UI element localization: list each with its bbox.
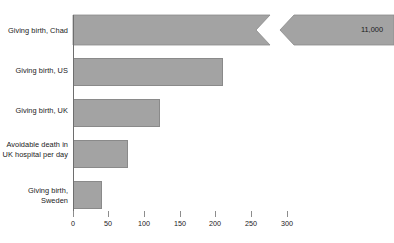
x-tick-50 <box>108 211 109 217</box>
plot-area: Giving birth, Chad Giving birth, US Givi… <box>0 0 394 243</box>
category-label-us: Giving birth, US <box>2 66 68 76</box>
bar-sweden <box>73 181 102 209</box>
bar-us <box>73 58 223 86</box>
x-tick-0 <box>73 211 74 217</box>
x-tick-300 <box>287 211 288 217</box>
category-label-chad: Giving birth, Chad <box>2 26 68 36</box>
x-tick-label-50: 50 <box>98 220 118 228</box>
x-tick-150 <box>180 211 181 217</box>
bar-uk-hospital <box>73 140 128 168</box>
x-tick-100 <box>144 211 145 217</box>
x-tick-label-200: 200 <box>205 220 225 228</box>
category-label-uk: Giving birth, UK <box>2 106 68 116</box>
y-axis-line <box>73 15 74 211</box>
x-tick-label-150: 150 <box>170 220 190 228</box>
x-tick-label-250: 250 <box>241 220 261 228</box>
value-label-chad: 11,000 <box>330 25 383 34</box>
x-tick-label-100: 100 <box>134 220 154 228</box>
bar-chad-left-segment <box>73 15 270 45</box>
category-label-uk-hospital: Avoidable death in UK hospital per day <box>2 140 68 159</box>
x-tick-label-0: 0 <box>63 220 83 228</box>
bar-chart: Giving birth, Chad Giving birth, US Givi… <box>0 0 394 243</box>
x-tick-label-300: 300 <box>277 220 297 228</box>
x-tick-200 <box>215 211 216 217</box>
x-tick-250 <box>251 211 252 217</box>
bar-uk <box>73 99 160 127</box>
category-label-sweden: Giving birth, Sweden <box>2 186 68 205</box>
